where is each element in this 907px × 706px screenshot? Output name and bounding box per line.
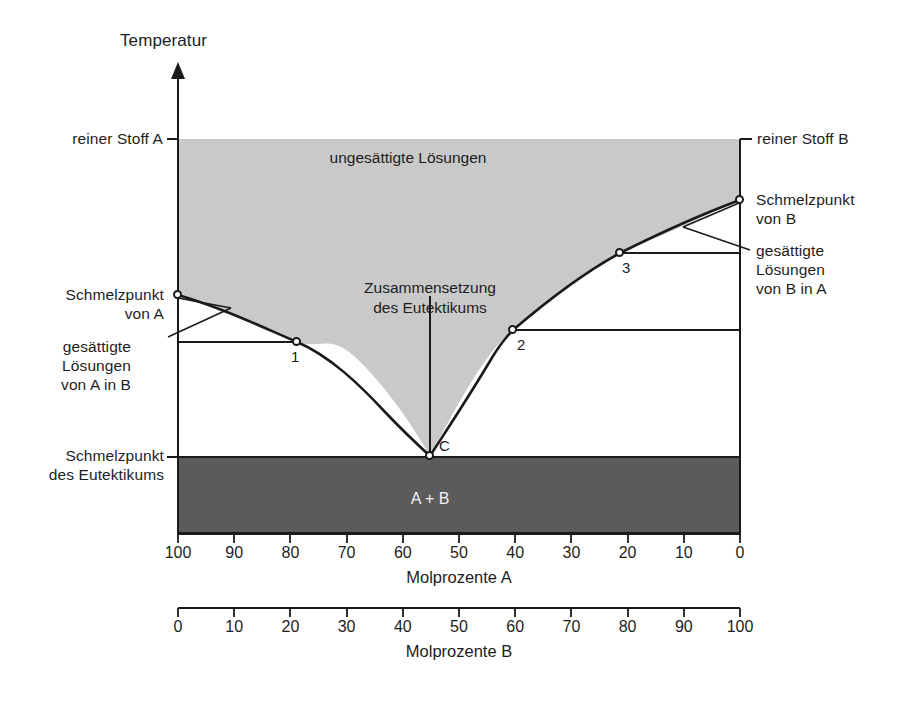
x-bottom-tick-6: 60: [495, 618, 535, 636]
pure-substance-b-label: reiner Stoff B: [757, 129, 849, 148]
data-point-1-marker: [292, 337, 301, 346]
y-axis-title: Temperatur: [120, 31, 207, 50]
x-top-tick-0: 100: [158, 544, 198, 562]
melting-point-a-label: Schmelzpunkt von A: [0, 285, 164, 323]
diagram-graphics: [0, 0, 907, 706]
x-top-tick-1: 90: [214, 544, 254, 562]
solid-region-label: A + B: [350, 489, 510, 509]
x-bottom-tick-2: 20: [270, 618, 310, 636]
melting-point-b-label: Schmelzpunkt von B: [756, 190, 855, 228]
x-top-tick-8: 20: [608, 544, 648, 562]
x-top-tick-3: 70: [327, 544, 367, 562]
x-bottom-tick-9: 90: [664, 618, 704, 636]
eutectic-point-marker: [425, 451, 434, 460]
melting-point-b-marker: [735, 195, 744, 204]
composition-axis: [177, 532, 741, 534]
temperature-axis: [177, 75, 179, 533]
x-bottom-tick-7: 70: [551, 618, 591, 636]
x-top-tick-7: 30: [551, 544, 591, 562]
x-bottom-tick-1: 10: [214, 618, 254, 636]
data-point-1-label: 1: [291, 348, 299, 365]
x-top-tick-10: 0: [720, 544, 760, 562]
x-bottom-tick-8: 80: [608, 618, 648, 636]
x-axis-top-title: Molprozente A: [259, 568, 659, 587]
x-axis-bottom-title: Molprozente B: [259, 642, 659, 661]
x-top-tick-5: 50: [439, 544, 479, 562]
saturated-b-in-a-label: gesättigte Lösungen von B in A: [756, 241, 827, 298]
melting-point-eutectic-label: Schmelzpunkt des Eutektikums: [0, 446, 164, 484]
x-top-tick-2: 80: [270, 544, 310, 562]
x-top-tick-6: 40: [495, 544, 535, 562]
pure-substance-a-label: reiner Stoff A: [0, 129, 163, 148]
temperature-axis-arrow-icon: [171, 62, 185, 79]
eutectic-point-label: C: [439, 437, 450, 454]
data-point-2-marker: [508, 325, 517, 334]
saturated-a-in-b-label: gesättigte Lösungen von A in B: [0, 337, 131, 394]
x-bottom-tick-5: 50: [439, 618, 479, 636]
x-top-tick-4: 60: [383, 544, 423, 562]
data-point-3-marker: [615, 248, 624, 257]
data-point-3-label: 3: [622, 259, 630, 276]
x-bottom-tick-10: 100: [720, 618, 760, 636]
eutectic-composition-label: Zusammensetzung des Eutektikums: [330, 278, 530, 318]
x-bottom-tick-3: 30: [327, 618, 367, 636]
melting-point-a-marker: [173, 290, 182, 299]
x-top-tick-9: 10: [664, 544, 704, 562]
unsaturated-region-label: ungesättigte Lösungen: [278, 148, 538, 168]
x-bottom-tick-0: 0: [158, 618, 198, 636]
x-bottom-tick-4: 40: [383, 618, 423, 636]
data-point-2-label: 2: [517, 336, 525, 353]
phase-diagram-figure: 1 2 3 C ungesättigte Lösungen A + B Zusa…: [0, 0, 907, 706]
